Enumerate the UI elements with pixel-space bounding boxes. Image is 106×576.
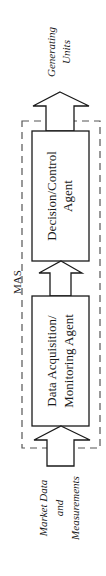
input-label-line2: and	[53, 499, 65, 516]
input-label-line3: Measurements	[69, 476, 81, 541]
internal-arrow	[39, 261, 82, 296]
input-arrow	[34, 426, 90, 466]
mas-label: MAS	[11, 270, 23, 294]
input-label-line1: Market Data	[37, 479, 49, 537]
data-agent-label-line1: Data Acquisition/	[44, 315, 59, 407]
output-label-line2: Units	[60, 40, 72, 64]
output-label-line1: Generating	[45, 26, 57, 77]
output-arrow	[33, 92, 89, 131]
decision-agent-label-line2: Agent	[60, 180, 75, 212]
data-agent-label-line2: Monitoring Agent	[61, 314, 76, 408]
decision-agent-label-line1: Decision/Control	[44, 151, 59, 241]
mas-diagram: MAS Decision/Control Agent Data Acquisit…	[0, 0, 106, 576]
